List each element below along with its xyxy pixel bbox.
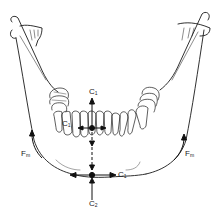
label-c1-bottom-right: C1 [118,171,127,179]
label-fm-right: Fm [185,150,194,158]
fm-right-arrow-icon [182,134,187,140]
mandible-diagram [0,0,220,214]
left-ramus [10,16,72,174]
label-c2-bottom: C2 [89,200,98,208]
force-vectors [30,98,187,200]
label-c1-left: C1 [62,120,71,128]
fm-left-arrow-icon [30,130,35,136]
label-c1-top: C1 [89,88,98,96]
front-teeth [62,110,136,137]
right-ramus [146,12,210,174]
right-molars [136,87,159,129]
label-fm-left: Fm [21,150,30,158]
arrow-up-icon [90,98,95,104]
